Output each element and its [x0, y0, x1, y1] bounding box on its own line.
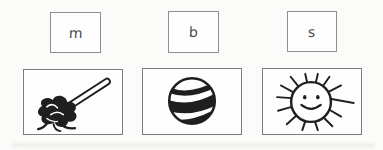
- letter-label: m: [68, 26, 82, 40]
- ball-icon: [143, 69, 241, 134]
- scan-smudge: [12, 143, 375, 147]
- worksheet: m b s: [0, 0, 383, 150]
- picture-card-mop[interactable]: [23, 69, 123, 135]
- sun-icon: [263, 69, 361, 134]
- letter-card-b[interactable]: b: [168, 11, 219, 53]
- picture-card-ball[interactable]: [142, 68, 242, 135]
- letter-card-m[interactable]: m: [50, 12, 101, 53]
- letter-label: b: [189, 25, 198, 39]
- mop-icon: [24, 70, 122, 134]
- letter-card-s[interactable]: s: [287, 11, 337, 52]
- picture-card-sun[interactable]: [262, 68, 362, 135]
- letter-label: s: [308, 25, 316, 39]
